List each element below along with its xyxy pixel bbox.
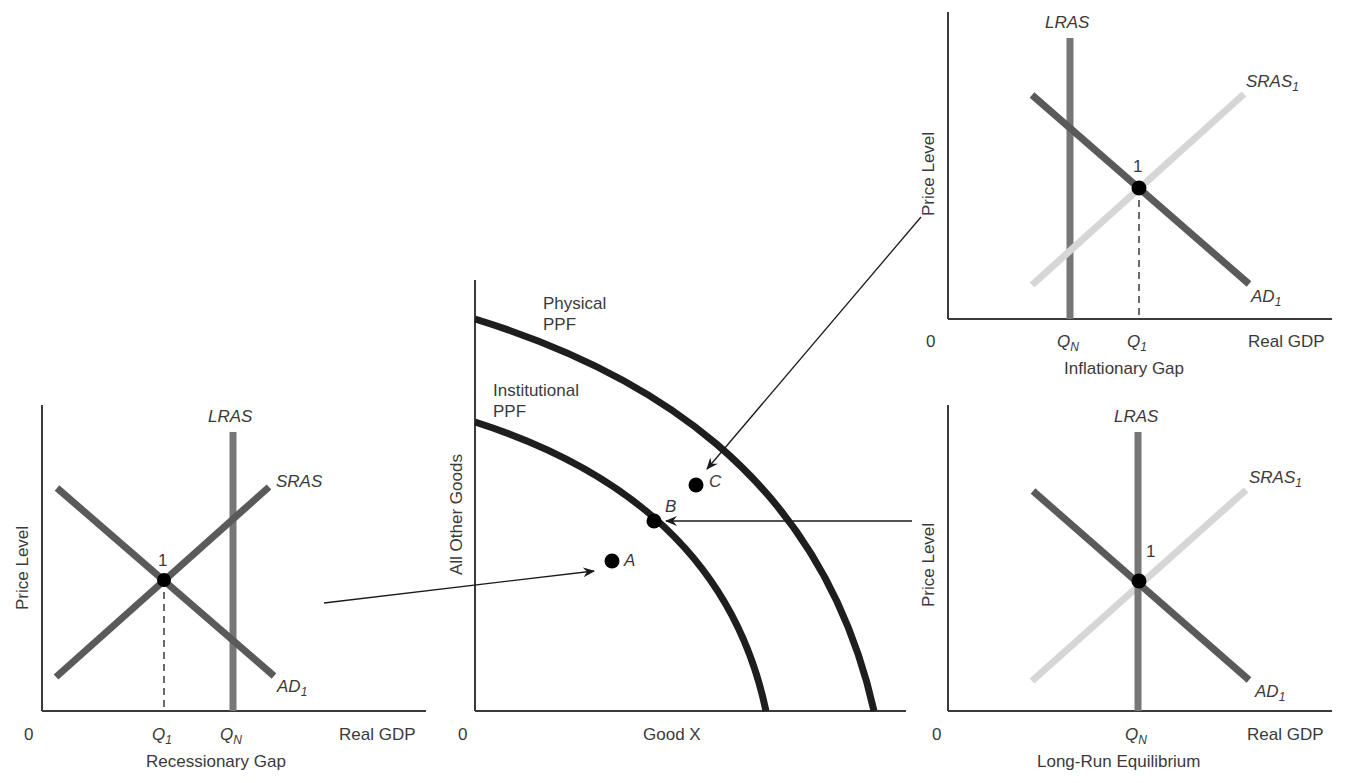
lras-label: LRAS [208,407,253,426]
physical-ppf-label-line1: Physical [543,294,606,313]
ppf-panel: A B C Physical PPF Institutional PPF All… [447,280,906,744]
point-c [689,478,704,493]
recessionary-gap-panel: 1 LRAS SRAS AD1 Price Level 0 Q1 QN Real… [13,405,426,771]
x-axis-label: Real GDP [1247,725,1324,744]
sras-label: SRAS [276,472,323,491]
panel-caption: Recessionary Gap [146,752,286,771]
institutional-ppf-label-line1: Institutional [493,381,579,400]
origin-label: 0 [458,725,467,744]
x-axis-label: Real GDP [1248,332,1325,351]
lras-label: LRAS [1114,407,1159,426]
ad-label: AD1 [1250,287,1281,309]
ad-label: AD1 [1254,682,1285,704]
point-b [647,514,662,529]
connector-arrows [324,217,921,603]
sras-label: SRAS1 [1246,72,1299,94]
point-1-label: 1 [1133,157,1142,176]
q1-label: Q1 [1127,332,1147,354]
arrow-inflationary-to-c [707,217,921,469]
x-axis-label: Real GDP [339,725,416,744]
point-1-label: 1 [1146,542,1155,561]
qn-label: QN [1125,725,1147,747]
point-b-label: B [665,497,676,516]
inflationary-gap-panel: 1 LRAS SRAS1 AD1 Price Level 0 QN Q1 Rea… [919,12,1332,378]
equilibrium-point-1 [157,573,171,587]
qn-label: QN [1057,332,1079,354]
lras-label: LRAS [1045,13,1090,32]
q1-label: Q1 [152,725,172,747]
y-axis-label: Price Level [13,526,32,610]
y-axis-label: Price Level [919,523,938,607]
institutional-ppf-curve [475,422,766,711]
origin-label: 0 [24,725,33,744]
physical-ppf-label-line2: PPF [543,315,576,334]
panel-caption: Long-Run Equilibrium [1037,752,1200,771]
sras-label: SRAS1 [1249,468,1302,490]
long-run-equilibrium-panel: 1 LRAS SRAS1 AD1 Price Level 0 QN Real G… [919,405,1332,771]
institutional-ppf-label-line2: PPF [493,402,526,421]
point-1-label: 1 [158,551,167,570]
equilibrium-point-1 [1132,181,1147,196]
point-a [605,554,620,569]
panel-caption: Inflationary Gap [1064,359,1184,378]
point-c-label: C [709,472,722,491]
ad-label: AD1 [276,677,307,699]
equilibrium-point-1 [1132,574,1147,589]
y-axis-label: All Other Goods [447,454,466,575]
y-axis-label: Price Level [919,132,938,216]
x-axis-label: Good X [643,725,701,744]
economics-diagram: 1 LRAS SRAS AD1 Price Level 0 Q1 QN Real… [0,0,1353,783]
origin-label: 0 [932,725,941,744]
point-a-label: A [623,551,635,570]
qn-label: QN [220,725,242,747]
origin-label: 0 [926,332,935,351]
